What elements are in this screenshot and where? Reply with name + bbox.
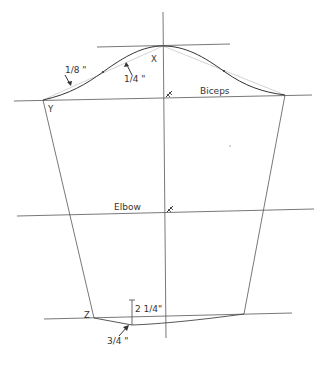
- elbow-line: [17, 209, 314, 216]
- arrow-3-4-icon: [119, 325, 129, 336]
- wrist-line: [44, 313, 292, 319]
- arrow-1-8-icon: [65, 75, 72, 86]
- measure-3-4-label: 3/4 ": [107, 336, 129, 346]
- sleeve-diagram: X Y Z Biceps Elbow 1/8 " 1/4 " 2 1/4" 3/…: [0, 0, 329, 370]
- right-underarm-seam: [244, 95, 285, 314]
- point-z-label: Z: [84, 310, 90, 320]
- point-x-label: X: [151, 54, 157, 64]
- elbow-label: Elbow: [114, 202, 141, 212]
- point-y-label: Y: [47, 104, 54, 114]
- left-underarm-seam: [43, 100, 94, 318]
- grain-arrow-biceps-icon: [166, 91, 172, 97]
- measure-1-4-label: 1/4 ": [124, 74, 146, 84]
- stray-mark: [229, 145, 231, 147]
- cap-notch-back: [223, 70, 225, 72]
- cap-notch-front: [102, 71, 104, 73]
- measure-2-1-4-label: 2 1/4": [135, 304, 162, 314]
- measure-1-8-label: 1/8 ": [65, 65, 87, 75]
- grain-arrow-elbow-icon: [167, 206, 173, 212]
- biceps-label: Biceps: [200, 86, 230, 96]
- center-grainline: [163, 12, 166, 338]
